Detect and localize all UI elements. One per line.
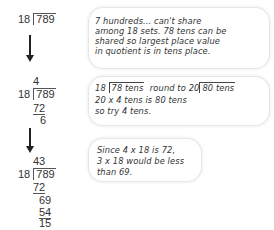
note-2-divisor2: 20 (189, 83, 200, 93)
note-1-line-4: in quotient is in tens place. (95, 46, 211, 56)
arrow-down-icon (26, 128, 34, 153)
step3-product1-wrap: 72 (33, 181, 45, 194)
step3-problem: 18 789 (18, 168, 56, 181)
note-2-line-2: 20 x 4 tens is 80 tens (95, 95, 187, 105)
step2-divisor: 18 (18, 88, 30, 100)
step1-problem: 18 789 (18, 13, 56, 26)
step3-divisor: 18 (18, 168, 30, 180)
step3-remainder: 15 (39, 218, 51, 229)
note-2-round-to: round to (150, 83, 186, 93)
step1-dividend: 789 (33, 13, 55, 25)
note-1-line-2: among 18 sets. 78 tens can be (95, 26, 226, 36)
step3-dividend: 789 (33, 168, 55, 180)
note-2-line-1: 18 78 tens round to 2080 tens (95, 83, 235, 93)
step1-divisor: 18 (18, 13, 30, 25)
arrow-down-icon (26, 35, 34, 62)
note-2-divisor: 18 (95, 83, 106, 93)
step2-remainder: 6 (40, 114, 46, 127)
note-3-line-2: 3 x 18 would be less (97, 156, 184, 166)
step3-quotient: 43 (33, 155, 45, 168)
step2-quotient: 4 (33, 75, 39, 88)
note-1-line-3: shared so largest place value (95, 36, 220, 46)
note-2-dividend2: 80 tens (199, 82, 235, 93)
note-2-dividend: 78 tens (109, 82, 145, 93)
note-1-line-1: 7 hundreds... can't share (95, 16, 201, 26)
note-3-line-3: than 69. (97, 167, 133, 177)
step2-dividend: 789 (33, 88, 55, 100)
note-3-line-1: Since 4 x 18 is 72, (97, 145, 175, 155)
note-2-line-3: so try 4 tens. (95, 106, 151, 116)
step2-problem: 18 789 (18, 88, 56, 101)
step3-product1: 72 (33, 181, 45, 194)
